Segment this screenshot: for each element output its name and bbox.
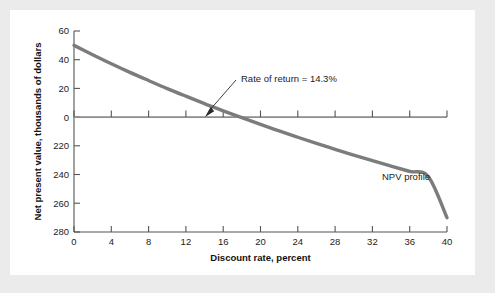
- y-tick-label: 40: [58, 54, 69, 65]
- y-axis-title: Net present value, thousands of dollars: [32, 43, 43, 221]
- y-tick-label: 60: [58, 25, 69, 36]
- x-axis-ticks: [74, 226, 447, 232]
- x-axis-title: Discount rate, percent: [210, 252, 311, 263]
- zero-line-ticks: [74, 111, 447, 118]
- x-tick-label: 8: [146, 236, 151, 247]
- y-tick-label: 0: [64, 112, 69, 123]
- figure-container: 60 40 20 0 220 240 260 280 Net present v…: [0, 0, 495, 293]
- x-tick-label: 20: [255, 236, 266, 247]
- npv-profile-label: NPV profile: [382, 171, 430, 182]
- x-tick-label: 0: [71, 236, 76, 247]
- y-tick-label: 280: [53, 226, 69, 237]
- annotation-leader-line: [209, 80, 236, 111]
- y-axis-tick-labels: 60 40 20 0 220 240 260 280: [53, 25, 69, 237]
- x-tick-label: 32: [367, 236, 378, 247]
- y-axis-ticks: [74, 31, 80, 232]
- x-tick-label: 24: [293, 236, 304, 247]
- y-tick-label: 260: [53, 198, 69, 209]
- x-tick-label: 16: [218, 236, 229, 247]
- npv-profile-chart: 60 40 20 0 220 240 260 280 Net present v…: [0, 0, 495, 293]
- x-tick-label: 12: [181, 236, 192, 247]
- y-tick-label: 20: [58, 83, 69, 94]
- x-tick-label: 4: [109, 236, 114, 247]
- npv-profile-curve: [74, 45, 447, 217]
- x-tick-label: 40: [442, 236, 453, 247]
- rate-of-return-label: Rate of return = 14.3%: [241, 73, 337, 84]
- x-axis-tick-labels: 0 4 8 12 16 20 24 28 32 36 40: [71, 236, 452, 247]
- y-tick-label: 220: [53, 140, 69, 151]
- y-tick-label: 240: [53, 169, 69, 180]
- x-tick-label: 28: [330, 236, 341, 247]
- x-tick-label: 36: [404, 236, 415, 247]
